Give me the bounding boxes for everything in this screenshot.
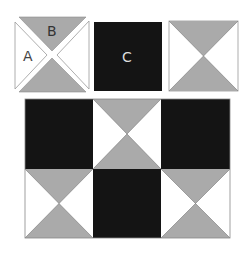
grid-cell-solid	[161, 99, 230, 169]
exploded-hourglass-unit: A B	[15, 17, 89, 92]
solid-square-unit: C	[94, 22, 162, 91]
grid-cell-hourglass	[93, 99, 161, 169]
label-b: B	[47, 23, 57, 39]
grid-cell-solid	[25, 99, 93, 169]
grid-cell-hourglass	[161, 169, 230, 238]
quilt-block-diagram: A B C	[0, 0, 247, 255]
label-c: C	[122, 49, 132, 65]
grid-cell-hourglass	[25, 169, 93, 238]
assembled-quilt-grid	[25, 99, 230, 238]
grid-cell-solid	[93, 169, 161, 238]
assembled-hourglass-unit	[169, 21, 238, 91]
label-a: A	[23, 48, 33, 64]
